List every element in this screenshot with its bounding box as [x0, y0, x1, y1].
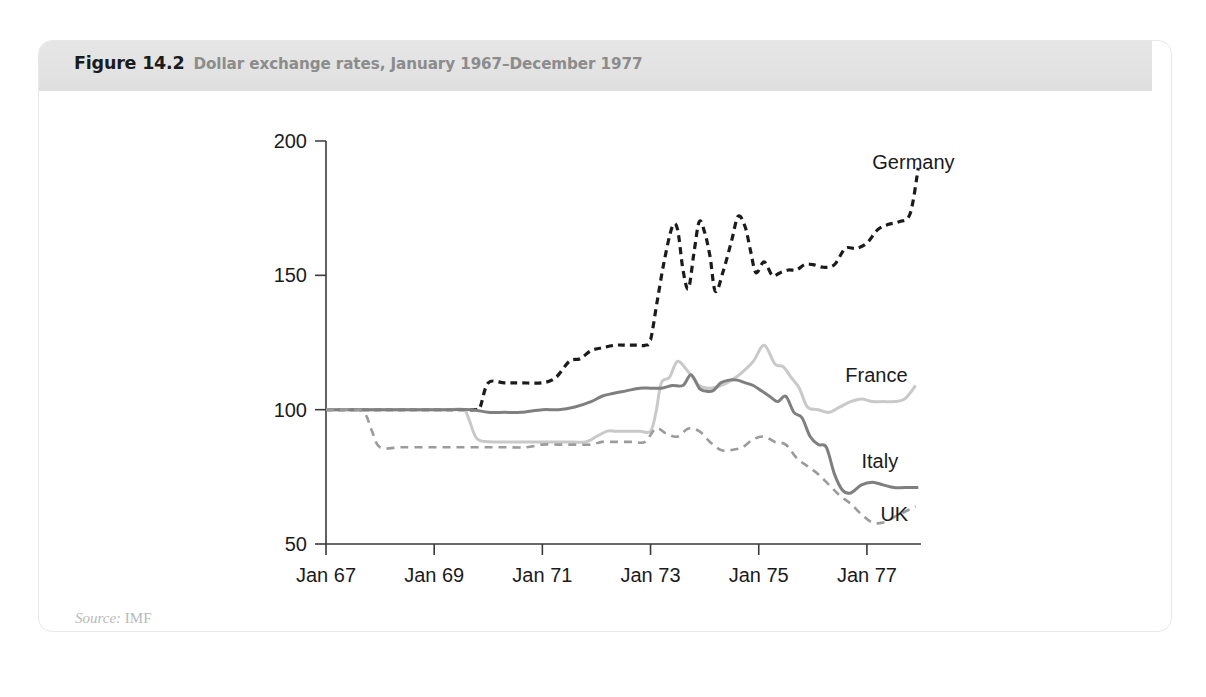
y-tick-label: 150 — [274, 264, 307, 286]
figure-title: Dollar exchange rates, January 1967–Dece… — [194, 55, 643, 73]
y-tick-label: 200 — [274, 130, 307, 152]
figure-number: Figure 14.2 — [74, 53, 185, 73]
figure-caption: Figure 14.2 Dollar exchange rates, Janua… — [74, 53, 643, 73]
series-label-uk: UK — [880, 503, 908, 525]
chart-plot-area: 50100150200Jan 67Jan 69Jan 71Jan 73Jan 7… — [39, 91, 1172, 596]
line-chart: 50100150200Jan 67Jan 69Jan 71Jan 73Jan 7… — [39, 91, 1172, 596]
series-line-france — [326, 345, 916, 442]
x-tick-label: Jan 71 — [512, 564, 572, 586]
y-tick-label: 50 — [285, 533, 307, 555]
x-tick-label: Jan 69 — [404, 564, 464, 586]
series-line-germany — [326, 168, 918, 410]
x-tick-label: Jan 67 — [296, 564, 356, 586]
figure-card: Figure 14.2 Dollar exchange rates, Janua… — [38, 40, 1172, 632]
x-tick-label: Jan 75 — [729, 564, 789, 586]
source-value: IMF — [125, 610, 152, 626]
series-line-italy — [326, 375, 918, 494]
series-label-france: France — [845, 364, 907, 386]
x-tick-label: Jan 73 — [621, 564, 681, 586]
series-label-italy: Italy — [862, 450, 899, 472]
figure-source: Source: IMF — [75, 610, 152, 627]
series-label-germany: Germany — [872, 151, 954, 173]
y-tick-label: 100 — [274, 399, 307, 421]
series-line-uk — [326, 409, 916, 523]
x-tick-label: Jan 77 — [837, 564, 897, 586]
screenshot-root: Figure 14.2 Dollar exchange rates, Janua… — [0, 0, 1206, 697]
source-prefix: Source: — [75, 610, 121, 626]
